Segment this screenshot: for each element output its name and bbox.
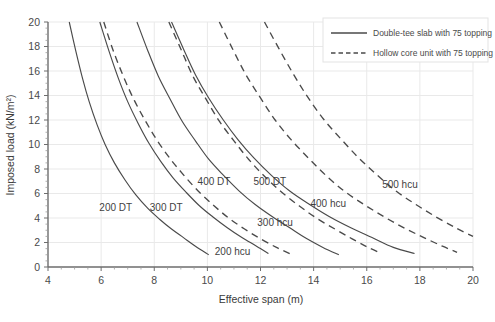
curve-label-500-dt: 500 DT (253, 176, 286, 187)
curve-labels: 200 DT300 DT400 DT500 DT200 hcu300 hcu40… (99, 176, 417, 257)
y-tick-label: 14 (28, 89, 40, 101)
x-tick-label: 4 (45, 274, 51, 286)
curve-label-300-hcu: 300 hcu (257, 217, 293, 228)
curve-label-200-hcu: 200 hcu (215, 246, 251, 257)
curve-label-300-dt: 300 DT (150, 202, 183, 213)
x-tick-label: 16 (361, 274, 373, 286)
x-tick-label: 14 (308, 274, 320, 286)
legend: Double-tee slab with 75 toppingHollow co… (323, 18, 493, 62)
y-tick-label: 2 (34, 236, 40, 248)
y-tick-label: 16 (28, 65, 40, 77)
legend-item-label: Double-tee slab with 75 topping (373, 28, 492, 38)
x-axis-title: Effective span (m) (219, 293, 303, 305)
x-tick-label: 8 (151, 274, 157, 286)
curve-label-400-dt: 400 DT (198, 176, 231, 187)
x-tick-label: 12 (255, 274, 267, 286)
legend-item-label: Hollow core unit with 75 topping (373, 48, 493, 58)
y-tick-label: 18 (28, 40, 40, 52)
y-tick-label: 0 (34, 261, 40, 273)
y-tick-label: 8 (34, 163, 40, 175)
x-tick-label: 10 (202, 274, 214, 286)
series-curve-200-dt (69, 22, 208, 255)
y-tick-label: 6 (34, 187, 40, 199)
curve-label-200-dt: 200 DT (99, 202, 132, 213)
curve-label-400-hcu: 400 hcu (310, 198, 346, 209)
y-tick-label: 4 (34, 212, 40, 224)
x-tick-label: 20 (467, 274, 479, 286)
y-axis-title: Imposed load (kN/m²) (4, 95, 16, 196)
x-tick-label: 6 (98, 274, 104, 286)
series-curve-400-dt (137, 22, 339, 255)
chart-container: 46810121416182002468101214161820 200 DT3… (0, 0, 495, 322)
load-span-chart: 46810121416182002468101214161820 200 DT3… (0, 0, 495, 322)
y-tick-label: 10 (28, 138, 40, 150)
y-tick-label: 12 (28, 114, 40, 126)
x-tick-label: 18 (414, 274, 426, 286)
curve-label-500-hcu: 500 hcu (382, 179, 418, 190)
y-tick-label: 20 (28, 16, 40, 28)
